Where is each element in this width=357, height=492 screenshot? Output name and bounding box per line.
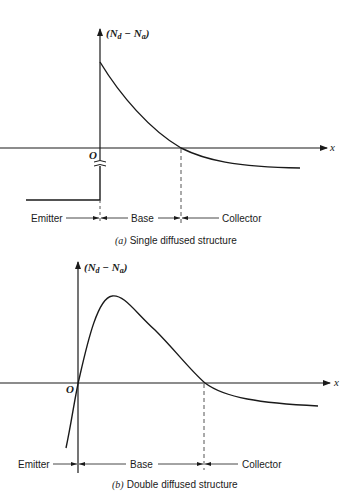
region-labels: Emitter Base Collector <box>18 459 282 470</box>
region-emitter-label: Emitter <box>31 213 63 224</box>
diagram-single-diffused: (Nd − Na) x O Emitter Base Collector (a)… <box>0 27 335 247</box>
axis-break-icon <box>94 161 106 167</box>
region-base-label: Base <box>131 213 154 224</box>
origin-label: O <box>89 149 97 161</box>
region-collector-label: Collector <box>242 459 282 470</box>
region-base-label: Base <box>130 459 153 470</box>
doping-curve <box>66 296 318 448</box>
doping-curve <box>100 62 300 168</box>
diagram-double-diffused: (Nd − Na) x O Emitter Base Collector (b)… <box>0 261 339 491</box>
region-collector-label: Collector <box>222 213 262 224</box>
y-axis-label: (Nd − Na) <box>106 27 149 41</box>
caption-a: (a)Single diffused structure <box>115 235 237 247</box>
caption-b: (b)Double diffused structure <box>112 479 238 491</box>
x-axis-label: x <box>329 141 335 153</box>
region-emitter-label: Emitter <box>18 459 50 470</box>
origin-label: O <box>66 383 74 395</box>
emitter-step <box>26 166 100 200</box>
doping-profile-figure: (Nd − Na) x O Emitter Base Collector (a)… <box>0 0 357 492</box>
region-labels: Emitter Base Collector <box>31 213 262 224</box>
x-axis-label: x <box>333 376 339 388</box>
y-axis-label: (Nd − Na) <box>84 261 127 275</box>
